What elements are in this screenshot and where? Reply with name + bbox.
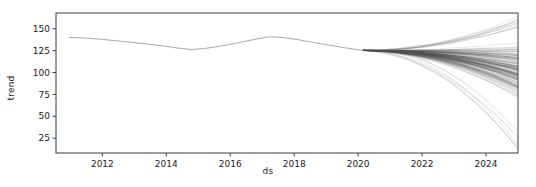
- forecast-sample-path: [363, 20, 518, 51]
- forecast-fan-group: [363, 16, 518, 149]
- y-tick-label: 25: [39, 133, 50, 143]
- chart-plot-svg: 2012201420162018202020222024255075100125…: [0, 0, 536, 187]
- chart-figure: 2012201420162018202020222024255075100125…: [0, 0, 536, 187]
- historical-trend-group: [69, 37, 362, 50]
- y-tick-label: 100: [33, 68, 50, 78]
- forecast-sample-path: [363, 19, 518, 50]
- y-tick-label: 50: [39, 111, 51, 121]
- forecast-sample-path: [363, 23, 518, 50]
- y-axis-label: trend: [0, 81, 41, 95]
- forecast-sample-path: [363, 21, 518, 51]
- y-tick-label: 150: [33, 24, 50, 34]
- axes-spines: [56, 13, 518, 153]
- historical-trend-line: [69, 37, 362, 50]
- y-tick-label: 125: [33, 46, 50, 56]
- forecast-sample-path: [363, 21, 518, 51]
- x-axis-label: ds: [0, 166, 536, 176]
- forecast-sample-path: [363, 23, 518, 51]
